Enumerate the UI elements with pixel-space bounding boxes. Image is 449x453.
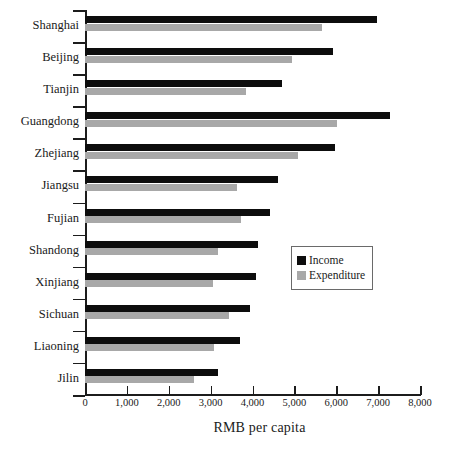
y-axis-tick: [73, 331, 85, 333]
bar-income-shandong: [85, 241, 258, 248]
bar-expenditure-guangdong: [85, 120, 337, 127]
category-label-xinjiang: Xinjiang: [0, 275, 79, 289]
bar-expenditure-jilin: [85, 376, 194, 383]
y-axis-tick: [73, 203, 85, 205]
bar-income-beijing: [85, 48, 333, 55]
x-axis-tick-label: 8,000: [390, 397, 449, 409]
chart-legend: Income Expenditure: [291, 246, 373, 290]
legend-swatch-income: [297, 256, 306, 265]
category-label-liaoning: Liaoning: [0, 339, 79, 353]
y-axis-tick: [73, 170, 85, 172]
legend-item-income: Income: [297, 254, 365, 266]
bar-income-zhejiang: [85, 144, 335, 151]
x-axis-tick: [420, 386, 422, 395]
bars-layer: [85, 10, 420, 395]
page-footnote: [0, 447, 449, 453]
category-label-beijing: Beijing: [0, 50, 79, 64]
bar-income-guangdong: [85, 112, 390, 119]
bar-expenditure-jiangsu: [85, 184, 237, 191]
category-label-fujian: Fujian: [0, 211, 79, 225]
bar-expenditure-beijing: [85, 56, 292, 63]
category-label-jiangsu: Jiangsu: [0, 178, 79, 192]
y-axis-tick: [73, 363, 85, 365]
bar-income-shanghai: [85, 16, 377, 23]
legend-label-income: Income: [309, 254, 343, 266]
y-axis-tick: [73, 138, 85, 140]
category-label-shandong: Shandong: [0, 243, 79, 257]
bar-income-fujian: [85, 209, 270, 216]
bar-expenditure-tianjin: [85, 88, 246, 95]
category-label-shanghai: Shanghai: [0, 18, 79, 32]
bar-chart: 01,0002,0003,0004,0005,0006,0007,0008,00…: [0, 0, 449, 453]
bar-income-liaoning: [85, 337, 240, 344]
x-axis-title: RMB per capita: [0, 420, 449, 436]
bar-expenditure-sichuan: [85, 312, 229, 319]
bar-income-jiangsu: [85, 176, 278, 183]
y-axis-tick: [73, 74, 85, 76]
legend-swatch-expenditure: [297, 271, 306, 280]
category-label-sichuan: Sichuan: [0, 307, 79, 321]
bar-expenditure-xinjiang: [85, 280, 213, 287]
bar-expenditure-shandong: [85, 248, 218, 255]
category-label-tianjin: Tianjin: [0, 82, 79, 96]
bar-income-tianjin: [85, 80, 282, 87]
bar-expenditure-liaoning: [85, 344, 214, 351]
bar-income-xinjiang: [85, 273, 256, 280]
category-label-zhejiang: Zhejiang: [0, 146, 79, 160]
y-axis-tick: [73, 267, 85, 269]
y-axis-tick: [73, 10, 85, 12]
bar-expenditure-shanghai: [85, 24, 322, 31]
legend-label-expenditure: Expenditure: [309, 269, 365, 281]
bar-expenditure-fujian: [85, 216, 241, 223]
bar-income-jilin: [85, 369, 218, 376]
x-axis-title-text: RMB per capita: [213, 420, 305, 436]
bar-expenditure-zhejiang: [85, 152, 298, 159]
bar-income-sichuan: [85, 305, 250, 312]
y-axis-tick: [73, 106, 85, 108]
legend-item-expenditure: Expenditure: [297, 269, 365, 281]
category-label-guangdong: Guangdong: [0, 114, 79, 128]
category-label-jilin: Jilin: [0, 371, 79, 385]
y-axis-tick: [73, 299, 85, 301]
y-axis-tick: [73, 235, 85, 237]
y-axis-tick: [73, 42, 85, 44]
